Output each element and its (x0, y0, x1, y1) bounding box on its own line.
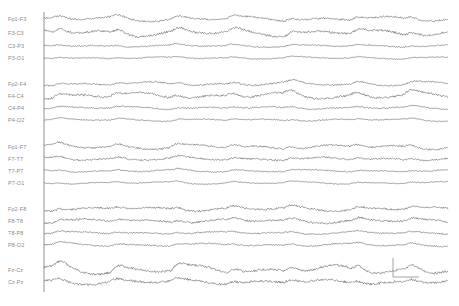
trace-p8-o2 (44, 241, 448, 247)
channel-label-cz-pz: Cz-Pz (8, 279, 23, 285)
channel-label-fz-cz: Fz-Cz (8, 267, 23, 273)
trace-fp2-f8 (44, 205, 448, 212)
trace-f8-t8 (44, 217, 448, 224)
channel-label-c4-p4: C4-P4 (8, 105, 24, 111)
channel-label-fp2-f4: Fp2-F4 (8, 81, 26, 87)
channel-label-f8-t8: F8-T8 (8, 218, 23, 224)
trace-fz-cz (44, 260, 448, 275)
calibration-marker (393, 258, 419, 277)
channel-label-c3-p3: C3-P3 (8, 43, 24, 49)
trace-f7-t7 (44, 155, 448, 161)
trace-t7-p7 (44, 168, 448, 172)
trace-c4-p4 (44, 105, 448, 110)
channel-label-t7-p7: T7-P7 (8, 168, 23, 174)
channel-label-fp2-f8: Fp2-F8 (8, 206, 26, 212)
channel-label-p7-o1: P7-O1 (8, 180, 24, 186)
channel-label-t8-p8: T8-P8 (8, 230, 23, 236)
trace-p4-o2 (44, 117, 448, 121)
channel-label-f7-t7: F7-T7 (8, 156, 23, 162)
trace-fp2-f4 (44, 79, 448, 86)
trace-c3-p3 (44, 43, 448, 48)
channel-label-f4-c4: F4-C4 (8, 93, 24, 99)
channel-label-f3-c3: F3-C3 (8, 30, 24, 36)
channel-label-p3-o1: P3-O1 (8, 55, 24, 61)
trace-f3-c3 (44, 27, 448, 38)
trace-fp1-f7 (44, 142, 448, 151)
trace-cz-pz (44, 277, 448, 286)
channel-label-fp1-f7: Fp1-F7 (8, 144, 26, 150)
trace-f4-c4 (44, 89, 448, 100)
channel-traces (44, 14, 448, 285)
trace-p7-o1 (44, 181, 448, 185)
trace-t8-p8 (44, 230, 448, 234)
channel-label-p8-o2: P8-O2 (8, 242, 24, 248)
channel-label-fp1-f3: Fp1-F3 (8, 16, 26, 22)
trace-p3-o1 (44, 56, 448, 60)
trace-fp1-f3 (44, 14, 448, 22)
channel-label-p4-o2: P4-O2 (8, 117, 24, 123)
eeg-trace-plot (0, 0, 459, 306)
